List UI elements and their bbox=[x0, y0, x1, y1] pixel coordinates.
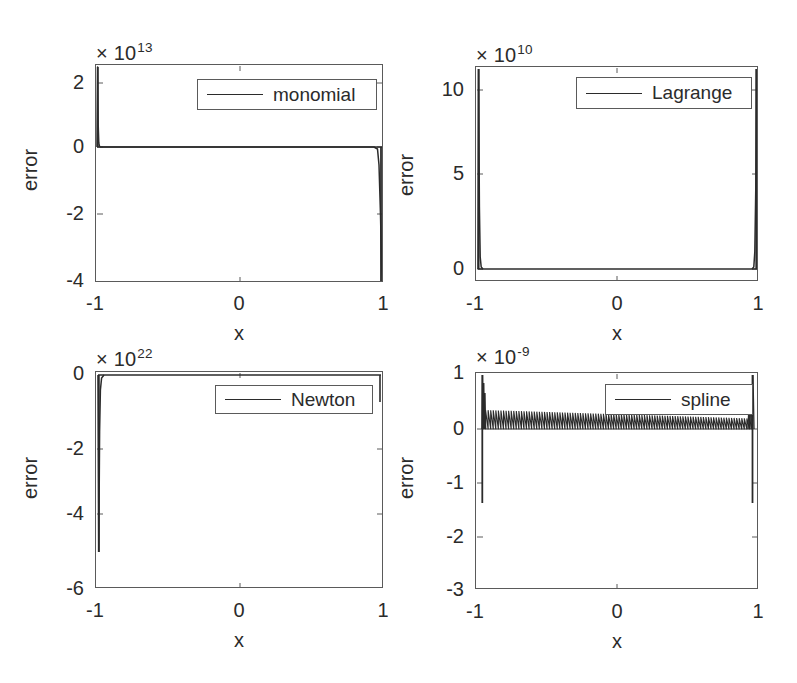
xtick-label: 0 bbox=[233, 292, 244, 315]
figure-canvas: × 1013 2 0 -2 -4 error bbox=[0, 0, 797, 683]
legend-line-sample bbox=[225, 399, 281, 400]
ytick-label: -3 bbox=[422, 578, 464, 601]
ytick-label: -2 bbox=[44, 202, 84, 225]
legend-label: Newton bbox=[291, 389, 355, 411]
y-exponent-label-lagrange: × 1010 bbox=[476, 42, 533, 67]
ytick-label: 0 bbox=[52, 135, 84, 158]
legend-line-sample bbox=[207, 94, 263, 95]
ytick-label: 0 bbox=[430, 417, 464, 440]
legend-label: spline bbox=[681, 389, 731, 411]
legend-monomial[interactable]: monomial bbox=[197, 79, 377, 110]
legend-line-sample bbox=[586, 93, 642, 94]
ytick-label: 1 bbox=[430, 361, 464, 384]
xtick-label: 0 bbox=[611, 600, 622, 623]
y-axis-label: error bbox=[395, 154, 418, 196]
legend-line-sample bbox=[615, 399, 671, 400]
legend-label: monomial bbox=[273, 84, 355, 106]
ytick-label: 10 bbox=[424, 78, 464, 101]
ytick-label: 5 bbox=[424, 162, 464, 185]
xtick-label: 1 bbox=[377, 599, 388, 622]
xtick-label: -1 bbox=[86, 599, 104, 622]
y-exponent-label-monomial: × 1013 bbox=[96, 40, 153, 65]
y-axis-label: error bbox=[19, 149, 42, 191]
xtick-label: 0 bbox=[233, 599, 244, 622]
xtick-label: 1 bbox=[377, 292, 388, 315]
y-exponent-label-spline: × 10-9 bbox=[476, 344, 530, 369]
xtick-label: -1 bbox=[466, 292, 484, 315]
ytick-label: -4 bbox=[44, 502, 84, 525]
ytick-label: -2 bbox=[44, 437, 84, 460]
xtick-label: -1 bbox=[86, 292, 104, 315]
x-axis-label: x bbox=[612, 630, 622, 653]
y-exponent-label-newton: × 1022 bbox=[96, 346, 153, 371]
ytick-label: 0 bbox=[52, 362, 84, 385]
ytick-label: -1 bbox=[422, 471, 464, 494]
xtick-label: 0 bbox=[611, 292, 622, 315]
ytick-label: 2 bbox=[52, 71, 84, 94]
y-axis-label: error bbox=[395, 457, 418, 499]
y-axis-label: error bbox=[19, 457, 42, 499]
legend-newton[interactable]: Newton bbox=[215, 385, 373, 414]
ytick-label: 0 bbox=[424, 257, 464, 280]
x-axis-label: x bbox=[234, 629, 244, 652]
legend-label: Lagrange bbox=[652, 82, 732, 104]
ytick-label: -2 bbox=[422, 525, 464, 548]
xtick-label: 1 bbox=[752, 600, 763, 623]
x-axis-label: x bbox=[234, 322, 244, 345]
xtick-label: 1 bbox=[752, 292, 763, 315]
ytick-label: -4 bbox=[44, 269, 84, 292]
xtick-label: -1 bbox=[466, 600, 484, 623]
x-axis-label: x bbox=[612, 322, 622, 345]
legend-spline[interactable]: spline bbox=[605, 384, 753, 415]
legend-lagrange[interactable]: Lagrange bbox=[576, 77, 752, 109]
ytick-label: -6 bbox=[44, 577, 84, 600]
